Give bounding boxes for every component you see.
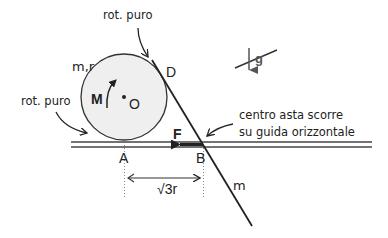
annotation-top: rot. puro xyxy=(103,8,152,22)
annotation-arrow-top xyxy=(138,28,148,57)
point-B-label: B xyxy=(196,150,205,166)
moment-label: M xyxy=(91,91,103,107)
distance-label: √3r xyxy=(157,181,177,197)
center-point-O xyxy=(122,95,126,99)
annotation-left: rot. puro xyxy=(21,94,70,108)
annotation-right-line2: su guida orizzontale xyxy=(239,125,355,139)
annotation-right-line1: centro asta scorre xyxy=(239,108,343,122)
annotation-arrow-right xyxy=(207,124,233,136)
disk-label: m,r xyxy=(72,59,95,74)
point-A-label: A xyxy=(119,150,129,166)
annotation-arrow-left xyxy=(56,112,87,133)
gravity-label: g xyxy=(255,51,263,66)
center-label-O: O xyxy=(129,96,140,112)
rod-mass-label: m xyxy=(233,178,246,193)
point-D-label: D xyxy=(166,64,176,80)
mechanics-diagram: g rot. puro rot. puro centro asta scorre… xyxy=(0,0,388,238)
force-label: F xyxy=(173,126,182,142)
